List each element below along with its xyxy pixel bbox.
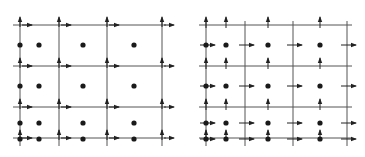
grid-dot (203, 136, 208, 141)
grid-dot (317, 120, 322, 125)
grid-dot (17, 136, 22, 141)
grid-dot (265, 136, 270, 141)
left-grid-diagram (13, 17, 174, 146)
grid-dot (223, 136, 228, 141)
grid-dot (131, 120, 136, 125)
grid-dot (80, 42, 85, 47)
grid-dot (203, 83, 208, 88)
grid-dot (17, 83, 22, 88)
grid-dot (36, 42, 41, 47)
grid-dot (131, 136, 136, 141)
grid-dot (265, 42, 270, 47)
grid-dot (265, 83, 270, 88)
grid-dot (265, 120, 270, 125)
grid-dot (80, 83, 85, 88)
grid-dot (223, 120, 228, 125)
grid-dot (80, 136, 85, 141)
grid-dot (80, 120, 85, 125)
grid-dot (317, 42, 322, 47)
grid-dot (131, 42, 136, 47)
grid-dot (203, 120, 208, 125)
grid-dot (36, 83, 41, 88)
grid-dot (17, 42, 22, 47)
grid-dot (17, 120, 22, 125)
right-grid-diagram (199, 17, 356, 146)
grid-dot (223, 42, 228, 47)
grid-dot (317, 136, 322, 141)
grid-dot (36, 136, 41, 141)
staggered-grid-diagrams (0, 0, 365, 157)
grid-dot (203, 42, 208, 47)
grid-dot (131, 83, 136, 88)
grid-dot (36, 120, 41, 125)
grid-dot (223, 83, 228, 88)
grid-dot (317, 83, 322, 88)
